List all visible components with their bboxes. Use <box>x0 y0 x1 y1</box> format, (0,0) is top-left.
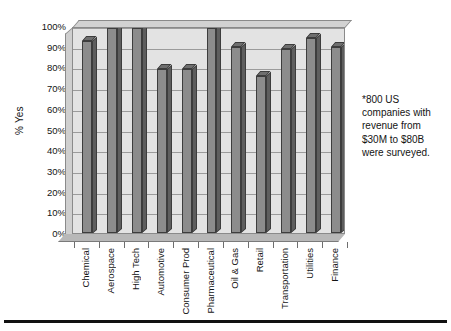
bar-automotive <box>157 69 167 233</box>
y-axis-tick-label: 70% <box>30 84 66 94</box>
bar-retail <box>256 76 266 233</box>
x-axis-category-labels: ChemicalAerospaceHigh TechAutomotiveCons… <box>72 248 357 326</box>
bar-consumer-prod <box>182 69 192 233</box>
bar-side-face <box>291 44 296 233</box>
x-axis-label-automotive: Automotive <box>156 248 166 296</box>
bar-front-face <box>132 28 142 233</box>
bar-high-tech <box>132 28 142 233</box>
bar-front-face <box>306 38 316 233</box>
bar-front-face <box>182 69 192 233</box>
bar-side-face <box>241 42 246 233</box>
bar-front-face <box>281 49 291 233</box>
bar-side-face <box>167 65 172 233</box>
survey-annotation-note: *800 US companies with revenue from $30M… <box>362 93 448 159</box>
bar-finance <box>331 47 341 233</box>
bar-front-face <box>107 28 117 233</box>
plot-floor <box>58 234 345 242</box>
y-axis-tick-label: 60% <box>30 105 66 115</box>
x-axis-label-oil-gas: Oil & Gas <box>230 248 240 289</box>
bar-side-face <box>92 36 97 233</box>
x-axis-label-finance: Finance <box>330 248 340 282</box>
y-axis-tick-label: 80% <box>30 63 66 73</box>
bar-side-face <box>341 42 345 233</box>
bar-front-face <box>207 28 217 233</box>
bar-side-face <box>142 27 147 233</box>
bar-front-face <box>331 47 341 233</box>
y-axis-tick-label: 90% <box>30 43 66 53</box>
plot-area <box>72 27 345 234</box>
x-axis-label-utilities: Utilities <box>305 248 315 279</box>
bar-transportation <box>281 49 291 233</box>
bar-oil-gas <box>231 47 241 233</box>
bar-utilities <box>306 38 316 233</box>
y-axis-tick-label: 100% <box>30 22 66 32</box>
x-axis-label-transportation: Transportation <box>280 248 290 309</box>
bar-side-face <box>192 65 197 233</box>
bottom-divider-rule <box>4 320 447 323</box>
bar-aerospace <box>107 28 117 233</box>
bar-chemical <box>82 41 92 234</box>
x-axis-label-chemical: Chemical <box>81 248 91 288</box>
x-axis-label-retail: Retail <box>255 248 265 272</box>
bar-front-face <box>157 69 167 233</box>
x-axis-label-aerospace: Aerospace <box>106 248 116 293</box>
bar-side-face <box>216 27 221 233</box>
x-axis-label-consumer-prod: Consumer Prod <box>181 248 191 315</box>
bar-side-face <box>316 34 321 233</box>
bar-side-face <box>266 71 271 233</box>
bar-pharmaceutical <box>207 28 217 233</box>
bar-front-face <box>231 47 241 233</box>
x-axis-label-pharmaceutical: Pharmaceutical <box>206 248 216 313</box>
y-axis-tick-labels: 0%10%20%30%40%50%60%70%80%90%100% <box>30 14 66 240</box>
y-axis-tick-label: 40% <box>30 146 66 156</box>
y-axis-tick-label: 10% <box>30 208 66 218</box>
bars-layer <box>73 28 344 233</box>
y-axis-tick-label: 20% <box>30 188 66 198</box>
bar-chart-figure: % Yes 0%10%20%30%40%50%60%70%80%90%100% … <box>0 0 451 331</box>
y-axis-title: % Yes <box>10 84 28 158</box>
y-axis-tick-label: 50% <box>30 126 66 136</box>
bar-side-face <box>117 27 122 233</box>
bar-front-face <box>82 41 92 234</box>
bar-front-face <box>256 76 266 233</box>
y-axis-tick-label: 30% <box>30 167 66 177</box>
x-axis-label-high-tech: High Tech <box>131 248 141 290</box>
